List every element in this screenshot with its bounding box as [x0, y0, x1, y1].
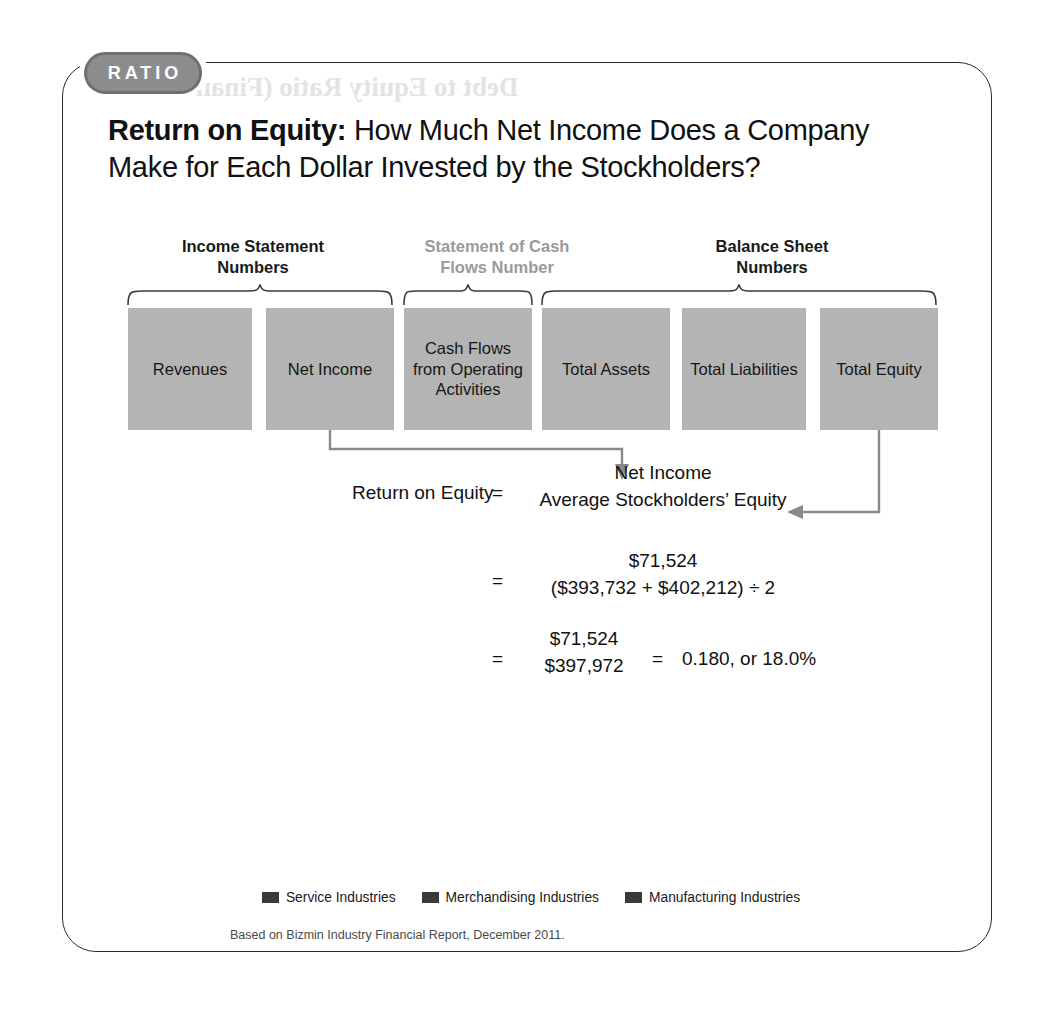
box-total-liabilities: Total Liabilities — [682, 308, 806, 430]
legend-swatch-icon — [262, 892, 279, 903]
box-label: Total Assets — [562, 359, 650, 380]
formula-equals-4: = — [652, 648, 663, 670]
box-revenues: Revenues — [128, 308, 252, 430]
group-header-balance-sheet: Balance Sheet Numbers — [612, 236, 932, 279]
group-header-line1: Statement of Cash — [398, 236, 596, 257]
group-header-line1: Balance Sheet — [612, 236, 932, 257]
group-header-cash-flows: Statement of Cash Flows Number — [398, 236, 596, 279]
ratio-card — [62, 62, 992, 952]
box-cash-flows-operating: Cash Flows from Operating Activities — [404, 308, 532, 430]
box-total-assets: Total Assets — [542, 308, 670, 430]
formula-numerator-3: $71,524 — [528, 628, 640, 652]
formula-equals-1: = — [492, 482, 503, 504]
chart-legend: Service Industries Merchandising Industr… — [0, 890, 1062, 905]
group-header-line2: Numbers — [612, 257, 932, 278]
legend-item-service: Service Industries — [262, 890, 396, 905]
formula-fraction-3: $71,524 $397,972 — [528, 628, 640, 677]
brace-cash-flows — [402, 284, 534, 306]
legend-label: Service Industries — [286, 890, 396, 905]
formula-result: 0.180, or 18.0% — [682, 648, 816, 670]
formula-equals-3: = — [492, 648, 503, 670]
formula-denominator-2: ($393,732 + $402,212) ÷ 2 — [528, 574, 798, 599]
box-label: Revenues — [153, 359, 227, 380]
group-header-line2: Flows Number — [398, 257, 596, 278]
formula-denominator-3: $397,972 — [528, 652, 640, 677]
legend-swatch-icon — [422, 892, 439, 903]
formula-name: Return on Equity — [352, 482, 494, 504]
chart-source-note: Based on Bizmin Industry Financial Repor… — [230, 928, 565, 942]
formula-numerator-1: Net Income — [528, 462, 798, 486]
box-label: Total Liabilities — [690, 359, 797, 380]
group-header-line1: Income Statement — [128, 236, 378, 257]
box-label: Net Income — [288, 359, 372, 380]
legend-swatch-icon — [625, 892, 642, 903]
ratio-badge-label: RATIO — [104, 63, 183, 84]
legend-item-merchandising: Merchandising Industries — [422, 890, 599, 905]
formula-fraction-2: $71,524 ($393,732 + $402,212) ÷ 2 — [528, 550, 798, 599]
box-total-equity: Total Equity — [820, 308, 938, 430]
box-label: Total Equity — [836, 359, 921, 380]
page-title-bold: Return on Equity: — [108, 114, 346, 146]
legend-label: Manufacturing Industries — [649, 890, 800, 905]
legend-item-manufacturing: Manufacturing Industries — [625, 890, 800, 905]
formula-denominator-1: Average Stockholders’ Equity — [528, 486, 798, 511]
box-net-income: Net Income — [266, 308, 394, 430]
formula-numerator-2: $71,524 — [528, 550, 798, 574]
page-title: Return on Equity: How Much Net Income Do… — [108, 112, 928, 185]
box-label: Cash Flows from Operating Activities — [410, 338, 526, 400]
legend-label: Merchandising Industries — [446, 890, 599, 905]
formula-fraction-1: Net Income Average Stockholders’ Equity — [528, 462, 798, 511]
brace-income-statement — [126, 284, 394, 306]
group-header-line2: Numbers — [128, 257, 378, 278]
ratio-badge: RATIO — [84, 52, 202, 94]
brace-balance-sheet — [540, 284, 938, 306]
formula-equals-2: = — [492, 570, 503, 592]
group-header-income-statement: Income Statement Numbers — [128, 236, 378, 279]
